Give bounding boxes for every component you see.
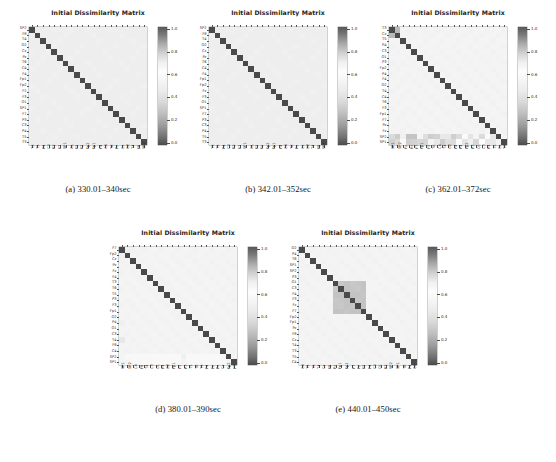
colorbar-tick-label: 0.2 (531, 118, 537, 122)
x-axis-labels: T3T5P4C3P3F7SP1O1F3FzFp2Fp1F4C4T6PzCzO2T… (209, 148, 327, 172)
colorbar-tick-mark (257, 272, 260, 273)
x-axis-labels: C4T5T3T4CzF8PzFp1Fp2F7FzF3F4C3O1P3SP2SP1… (299, 368, 417, 392)
colorbar-tick-label: 0.8 (441, 270, 447, 274)
colorbar-tick-label: 0.0 (531, 141, 537, 145)
colorbar-tick-mark (347, 52, 350, 53)
panel-title: Initial Dissimilarity Matrix (188, 8, 368, 17)
subfigure-caption: (d) 380.01–390sec (98, 404, 278, 414)
colorbar-tick-mark (257, 294, 260, 295)
x-axis-labels: SP1SP2C4F8T4C3O1P4O2Fp1F3P3T5T6T3F4FzPzC… (119, 368, 237, 392)
colorbar-tick-label: 1.0 (351, 27, 357, 31)
colorbar-tick-mark (527, 143, 530, 144)
colorbar-tick-mark (437, 249, 440, 250)
panel-title: Initial Dissimilarity Matrix (8, 8, 188, 17)
subfigure-e: Initial Dissimilarity Matrix O2P4T6SP1SP… (278, 228, 458, 414)
colorbar-gradient (158, 27, 167, 145)
colorbar-tick-label: 0.4 (171, 95, 177, 99)
colorbar-tick-mark (347, 120, 350, 121)
heatmap-wrapper (299, 247, 417, 365)
colorbar-tick-label: 0.4 (351, 95, 357, 99)
colorbar-tick-mark (167, 52, 170, 53)
subfigure-d: Initial Dissimilarity Matrix F7Fp2CzPzFz… (98, 228, 278, 414)
colorbar-tick-mark (437, 272, 440, 273)
colorbar-ticks: 1.00.80.60.40.20.0 (347, 27, 367, 145)
colorbar-tick-label: 0.8 (171, 50, 177, 54)
plot-area: SP2F8T4O2CzPzT6C4F4Fp1Fp2FzF3O1SP1F7P3C3… (188, 23, 368, 173)
colorbar-tick-label: 0.2 (261, 338, 267, 342)
colorbar-tick-mark (347, 97, 350, 98)
colorbar-ticks: 1.00.80.60.40.20.0 (437, 247, 457, 365)
heatmap-wrapper (389, 27, 507, 145)
colorbar-tick-label: 0.6 (351, 73, 357, 77)
colorbar-tick-mark (257, 249, 260, 250)
colorbar-ticks: 1.00.80.60.40.20.0 (527, 27, 547, 145)
colorbar-wrapper: 1.00.80.60.40.20.0 (518, 27, 548, 145)
colorbar-tick-mark (437, 294, 440, 295)
colorbar-tick-mark (437, 317, 440, 318)
colorbar-tick-mark (527, 97, 530, 98)
colorbar-tick-label: 0.0 (351, 141, 357, 145)
figure-row-top: Initial Dissimilarity Matrix SP2F8T4O2Cz… (0, 8, 556, 194)
colorbar-tick-label: 0.6 (531, 73, 537, 77)
colorbar-tick-mark (347, 29, 350, 30)
colorbar-tick-label: 0.2 (441, 338, 447, 342)
colorbar-tick-label: 0.0 (261, 361, 267, 365)
colorbar-tick-label: 0.4 (531, 95, 537, 99)
dissimilarity-heatmap[interactable] (119, 247, 237, 365)
colorbar-tick-label: 0.2 (351, 118, 357, 122)
plot-area: O2P4T6SP1SP2P3O1C3F4F3FzF7Fp2Fp1PzF8CzT4… (278, 243, 458, 393)
plot-area: SP2F8T4O2CzPzT6C4F4Fp1Fp2F2F3O1SP1F7P3C3… (8, 23, 188, 173)
colorbar-tick-label: 0.6 (441, 293, 447, 297)
colorbar-tick-mark (347, 143, 350, 144)
colorbar-ticks: 1.00.80.60.40.20.0 (257, 247, 277, 365)
subfigure-a: Initial Dissimilarity Matrix SP2F8T4O2Cz… (8, 8, 188, 194)
colorbar-tick-mark (257, 363, 260, 364)
colorbar-tick-label: 1.0 (441, 247, 447, 251)
plot-area: T3CzT5P4C3O1P3Fp2P4F4O2T4C4T6F3Fp1F7PzFz… (368, 23, 548, 173)
colorbar-wrapper: 1.00.80.60.40.20.0 (158, 27, 188, 145)
colorbar-tick-label: 1.0 (171, 27, 177, 31)
dissimilarity-heatmap[interactable] (299, 247, 417, 365)
colorbar-tick-label: 1.0 (261, 247, 267, 251)
colorbar-gradient (338, 27, 347, 145)
colorbar-tick-mark (167, 74, 170, 75)
subfigure-b: Initial Dissimilarity Matrix SP2F8T4O2Cz… (188, 8, 368, 194)
colorbar-tick-mark (167, 97, 170, 98)
dissimilarity-heatmap[interactable] (29, 27, 147, 145)
colorbar-tick-mark (167, 29, 170, 30)
panel-title: Initial Dissimilarity Matrix (368, 8, 548, 17)
dissimilarity-heatmap[interactable] (389, 27, 507, 145)
colorbar-tick-mark (527, 120, 530, 121)
colorbar-tick-mark (257, 340, 260, 341)
x-axis-labels: SP1SP2FzPzF7Fp1F3T6C4T4O2F4P4Fp2P3O1C3P4… (389, 148, 507, 172)
colorbar-tick-mark (167, 143, 170, 144)
panel-title: Initial Dissimilarity Matrix (98, 228, 278, 237)
y-axis-labels: SP2F8T4O2CzPzT6C4F4Fp1Fp2F2F3O1SP1F7P3C3… (8, 27, 28, 145)
colorbar-tick-mark (527, 52, 530, 53)
figure-container: Initial Dissimilarity Matrix SP2F8T4O2Cz… (0, 0, 556, 462)
subfigure-caption: (c) 362.01–372sec (368, 184, 548, 194)
colorbar-tick-label: 0.4 (441, 315, 447, 319)
colorbar-ticks: 1.00.80.60.40.20.0 (167, 27, 187, 145)
panel-title: Initial Dissimilarity Matrix (278, 228, 458, 237)
subfigure-caption: (a) 330.01–340sec (8, 184, 188, 194)
colorbar-gradient (518, 27, 527, 145)
colorbar-tick-label: 0.6 (261, 293, 267, 297)
x-axis-labels: T3T5P4C3P3F7SP1O1F3F2Fp2Fp1F4C4T6PzCzO2T… (29, 148, 147, 172)
colorbar-gradient (428, 247, 437, 365)
colorbar-wrapper: 1.00.80.60.40.20.0 (248, 247, 278, 365)
dissimilarity-heatmap[interactable] (209, 27, 327, 145)
heatmap-wrapper (29, 27, 147, 145)
colorbar-gradient (248, 247, 257, 365)
subfigure-caption: (e) 440.01–450sec (278, 404, 458, 414)
colorbar-wrapper: 1.00.80.60.40.20.0 (338, 27, 368, 145)
colorbar-tick-label: 0.4 (261, 315, 267, 319)
figure-row-bottom: Initial Dissimilarity Matrix F7Fp2CzPzFz… (0, 228, 556, 414)
colorbar-tick-label: 0.8 (531, 50, 537, 54)
colorbar-tick-label: 0.8 (261, 270, 267, 274)
colorbar-tick-mark (437, 340, 440, 341)
subfigure-c: Initial Dissimilarity Matrix T3CzT5P4C3O… (368, 8, 548, 194)
y-axis-labels: F7Fp2CzPzFzF4T3T6T5P3F3Fp1O2P4O1C3T4F8C4… (98, 247, 118, 365)
colorbar-tick-mark (527, 74, 530, 75)
colorbar-tick-label: 0.8 (351, 50, 357, 54)
